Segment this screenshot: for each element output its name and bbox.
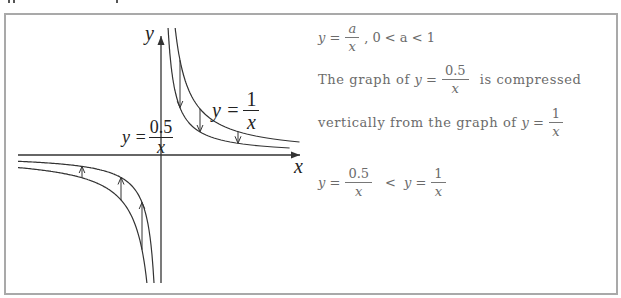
curve-1-over-x-lower bbox=[18, 168, 147, 283]
note-line-2: The graph of y = 0.5x is compressed bbox=[318, 62, 581, 97]
note-line-1: y = ax , 0 < a < 1 bbox=[318, 20, 435, 55]
y-axis-label: y bbox=[145, 22, 154, 45]
hyperbola-graph bbox=[0, 0, 621, 298]
note-line-3: vertically from the graph of y = 1x bbox=[318, 105, 568, 140]
label-curve-0.5: y = 0.5 x bbox=[122, 118, 178, 157]
note-line-4: y = 0.5x < y = 1x bbox=[318, 165, 451, 200]
x-axis-label: x bbox=[294, 155, 303, 178]
label-curve-1: y = 1 x bbox=[212, 88, 264, 133]
